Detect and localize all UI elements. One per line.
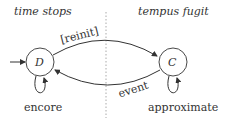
state-c-label: C (168, 57, 176, 68)
self-loop-label-d: encore (24, 102, 62, 113)
self-loop-label-c: approximate (148, 102, 218, 113)
self-loop-d (35, 76, 45, 93)
state-d-label: D (35, 57, 44, 68)
region-title-left: time stops (14, 6, 72, 17)
region-title-right: tempus fugit (138, 6, 209, 17)
self-loop-c (168, 76, 178, 93)
